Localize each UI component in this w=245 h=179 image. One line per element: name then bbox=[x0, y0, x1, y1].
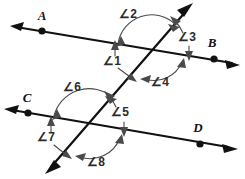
geometry-diagram: A B C D bbox=[0, 0, 245, 179]
angle-label-4: ∠4 bbox=[151, 75, 169, 89]
point-A-dot bbox=[38, 27, 45, 34]
angle-label-5: ∠5 bbox=[111, 105, 129, 119]
angle-label-3: ∠3 bbox=[178, 30, 196, 44]
point-C-dot bbox=[24, 109, 31, 116]
point-label-A: A bbox=[37, 8, 47, 23]
line-AB-segment bbox=[16, 27, 232, 63]
angle-label-1: ∠1 bbox=[103, 54, 121, 68]
angle-8-arrowhead-end bbox=[115, 134, 124, 144]
angle-4-arrowhead-start bbox=[140, 75, 151, 83]
point-label-C: C bbox=[23, 90, 32, 105]
angle-label-2: ∠2 bbox=[119, 7, 137, 21]
geometry-canvas: A B C D bbox=[0, 0, 245, 179]
angle-8-arrowhead-start bbox=[75, 153, 86, 161]
transversal-top-arrowhead bbox=[177, 3, 193, 17]
line-AB-right-arrowhead bbox=[225, 60, 240, 69]
point-D-dot bbox=[196, 140, 203, 147]
point-label-D: D bbox=[192, 120, 203, 135]
angle-label-7: ∠7 bbox=[37, 130, 55, 144]
line-AB-left-arrowhead bbox=[10, 22, 24, 31]
point-label-B: B bbox=[207, 35, 217, 50]
line-CD-left-arrowhead bbox=[4, 105, 19, 114]
line-CD-right-arrowhead bbox=[222, 144, 238, 153]
point-B-dot bbox=[210, 55, 217, 62]
angle-4-arrowhead-end bbox=[177, 58, 186, 68]
line-upper-parallel bbox=[10, 22, 240, 69]
angle-label-6: ∠6 bbox=[63, 80, 81, 94]
angle-label-8: ∠8 bbox=[87, 155, 105, 169]
transversal-bottom-arrowhead bbox=[45, 160, 61, 174]
